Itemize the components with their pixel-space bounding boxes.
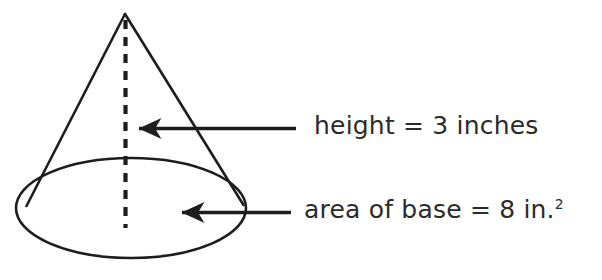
area-label-exponent: 2: [555, 196, 564, 212]
cone-figure: [0, 0, 602, 280]
cone-base-ellipse: [16, 158, 246, 258]
height-label: height = 3 inches: [314, 113, 539, 138]
area-label-text: area of base = 8 in.: [304, 195, 555, 224]
cone-right-slant-edge: [125, 14, 244, 205]
cone-left-slant-edge: [27, 14, 126, 206]
diagram-canvas: height = 3 inches area of base = 8 in.2: [0, 0, 602, 280]
area-of-base-label: area of base = 8 in.2: [304, 197, 564, 222]
